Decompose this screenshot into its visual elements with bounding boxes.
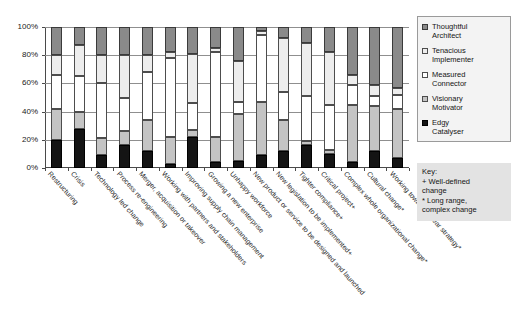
bar-segment[interactable] [347, 75, 358, 85]
bar-column[interactable] [51, 27, 62, 168]
bar-segment[interactable] [233, 161, 244, 168]
bar-segment[interactable] [324, 154, 335, 168]
bar-column[interactable] [278, 27, 289, 168]
bar-segment[interactable] [392, 109, 403, 158]
bar-column[interactable] [301, 27, 312, 168]
bar-segment[interactable] [51, 140, 62, 168]
bar-segment[interactable] [165, 27, 176, 52]
bar-column[interactable] [119, 27, 130, 168]
bar-segment[interactable] [51, 75, 62, 109]
bar-segment[interactable] [119, 27, 130, 55]
bar-segment[interactable] [210, 162, 221, 168]
bar-segment[interactable] [187, 54, 198, 103]
bar-segment[interactable] [74, 112, 85, 129]
bar-segment[interactable] [392, 27, 403, 88]
legend-item[interactable]: ThoughtfulArchitect [422, 22, 506, 40]
bar-column[interactable] [347, 27, 358, 168]
bar-column[interactable] [369, 27, 380, 168]
bar-segment[interactable] [278, 92, 289, 120]
bar-segment[interactable] [347, 105, 358, 163]
bar-segment[interactable] [301, 43, 312, 97]
bar-segment[interactable] [187, 137, 198, 168]
bar-segment[interactable] [301, 27, 312, 43]
legend-item[interactable]: TenaciousImplementer [422, 46, 506, 64]
legend-item[interactable]: VisionaryMotivator [422, 94, 506, 112]
bar-segment[interactable] [165, 58, 176, 137]
bar-segment[interactable] [96, 138, 107, 155]
stacked-bar[interactable] [392, 27, 403, 168]
stacked-bar[interactable] [256, 27, 267, 168]
bar-segment[interactable] [210, 52, 221, 137]
stacked-bar[interactable] [347, 27, 358, 168]
bar-segment[interactable] [210, 27, 221, 48]
bar-segment[interactable] [187, 130, 198, 137]
stacked-bar[interactable] [233, 27, 244, 168]
bar-segment[interactable] [165, 137, 176, 164]
stacked-bar[interactable] [278, 27, 289, 168]
bar-segment[interactable] [187, 27, 198, 54]
bar-segment[interactable] [369, 96, 380, 106]
bar-segment[interactable] [233, 61, 244, 102]
bar-column[interactable] [392, 27, 403, 168]
bar-segment[interactable] [119, 98, 130, 132]
bar-segment[interactable] [392, 95, 403, 109]
bar-column[interactable] [74, 27, 85, 168]
bar-segment[interactable] [369, 85, 380, 96]
bar-segment[interactable] [119, 131, 130, 145]
bar-column[interactable] [324, 27, 335, 168]
stacked-bar[interactable] [187, 27, 198, 168]
bar-segment[interactable] [278, 120, 289, 151]
bar-segment[interactable] [142, 55, 153, 72]
bar-segment[interactable] [301, 145, 312, 168]
bar-column[interactable] [233, 27, 244, 168]
bar-column[interactable] [187, 27, 198, 168]
bar-segment[interactable] [278, 38, 289, 92]
bar-segment[interactable] [74, 45, 85, 76]
bar-segment[interactable] [96, 27, 107, 55]
bar-segment[interactable] [324, 105, 335, 150]
bar-column[interactable] [142, 27, 153, 168]
bar-column[interactable] [165, 27, 176, 168]
bar-segment[interactable] [96, 55, 107, 83]
stacked-bar[interactable] [119, 27, 130, 168]
bar-segment[interactable] [187, 103, 198, 130]
stacked-bar[interactable] [369, 27, 380, 168]
stacked-bar[interactable] [165, 27, 176, 168]
bar-segment[interactable] [324, 52, 335, 104]
stacked-bar[interactable] [210, 27, 221, 168]
legend-item[interactable]: EdgyCatalyser [422, 118, 506, 136]
legend-item[interactable]: MeasuredConnector [422, 70, 506, 88]
bar-segment[interactable] [96, 83, 107, 138]
bar-segment[interactable] [165, 164, 176, 168]
bar-segment[interactable] [347, 85, 358, 105]
bar-segment[interactable] [233, 27, 244, 61]
bar-segment[interactable] [347, 27, 358, 75]
bar-segment[interactable] [256, 102, 267, 156]
bar-segment[interactable] [142, 27, 153, 55]
bar-segment[interactable] [119, 55, 130, 97]
bar-segment[interactable] [96, 155, 107, 168]
bar-segment[interactable] [369, 151, 380, 168]
stacked-bar[interactable] [142, 27, 153, 168]
bar-column[interactable] [96, 27, 107, 168]
bar-segment[interactable] [301, 96, 312, 141]
stacked-bar[interactable] [301, 27, 312, 168]
bar-segment[interactable] [210, 137, 221, 162]
bar-segment[interactable] [74, 27, 85, 45]
bar-segment[interactable] [51, 109, 62, 140]
bar-segment[interactable] [256, 155, 267, 168]
bar-segment[interactable] [74, 129, 85, 168]
bar-segment[interactable] [142, 72, 153, 120]
bar-segment[interactable] [278, 151, 289, 168]
bar-segment[interactable] [51, 27, 62, 55]
bar-segment[interactable] [369, 27, 380, 85]
bar-segment[interactable] [256, 35, 267, 101]
bar-column[interactable] [256, 27, 267, 168]
stacked-bar[interactable] [324, 27, 335, 168]
bar-segment[interactable] [233, 102, 244, 115]
bar-segment[interactable] [74, 76, 85, 111]
bar-segment[interactable] [233, 114, 244, 161]
stacked-bar[interactable] [96, 27, 107, 168]
bar-segment[interactable] [142, 151, 153, 168]
stacked-bar[interactable] [74, 27, 85, 168]
